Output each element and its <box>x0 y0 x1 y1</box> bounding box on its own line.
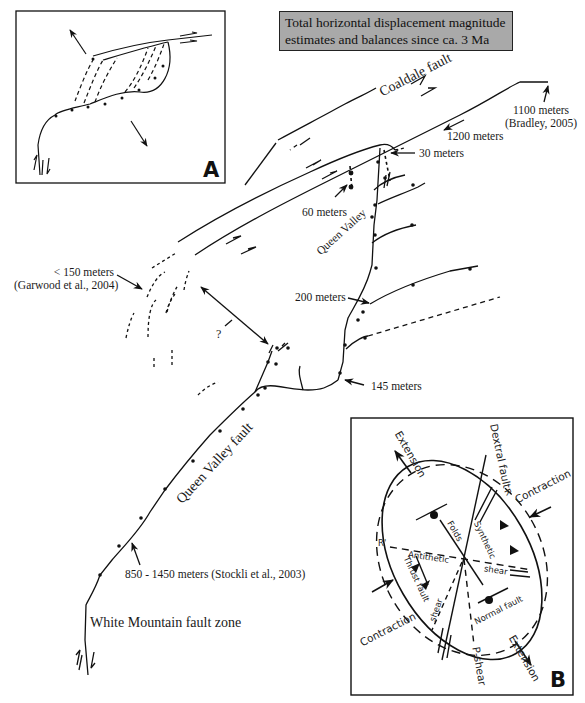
panel-a-letter: A <box>203 158 219 182</box>
title-line-1: Total horizontal displacement magnitude <box>285 14 507 31</box>
estimate-200m: 200 meters <box>295 291 346 304</box>
title-box: Total horizontal displacement magnitude … <box>279 11 513 51</box>
estimate-60m: 60 meters <box>302 206 347 219</box>
estimate-bradley-value: 1100 meters <box>505 104 577 117</box>
coaldale-fault-trace <box>195 82 548 255</box>
estimate-bradley-source: (Bradley, 2005) <box>505 117 577 130</box>
unknown-marker: ? <box>216 328 221 341</box>
fault-map <box>0 0 585 703</box>
panel-a-diagram <box>16 11 225 183</box>
estimate-145m: 145 meters <box>371 380 422 393</box>
title-line-2: estimates and balances since ca. 3 Ma <box>285 31 507 48</box>
white-mountain-fault-zone-label: White Mountain fault zone <box>90 616 241 629</box>
estimate-garwood: < 150 meters (Garwood et al., 2004) <box>14 266 114 292</box>
estimate-stockli: 850 - 1450 meters (Stockli et al., 2003) <box>125 568 305 581</box>
estimate-bradley: 1100 meters (Bradley, 2005) <box>505 104 577 130</box>
stockli-arrow <box>132 543 140 565</box>
estimate-30m: 30 meters <box>419 147 464 160</box>
panel-b-letter: B <box>550 668 566 692</box>
estimate-garwood-source: (Garwood et al., 2004) <box>14 279 114 292</box>
b-r-prime: R' <box>378 538 386 548</box>
panel-b-diagram <box>343 418 582 695</box>
estimate-1200m: 1200 meters <box>447 130 504 143</box>
estimate-garwood-value: < 150 meters <box>14 266 114 279</box>
